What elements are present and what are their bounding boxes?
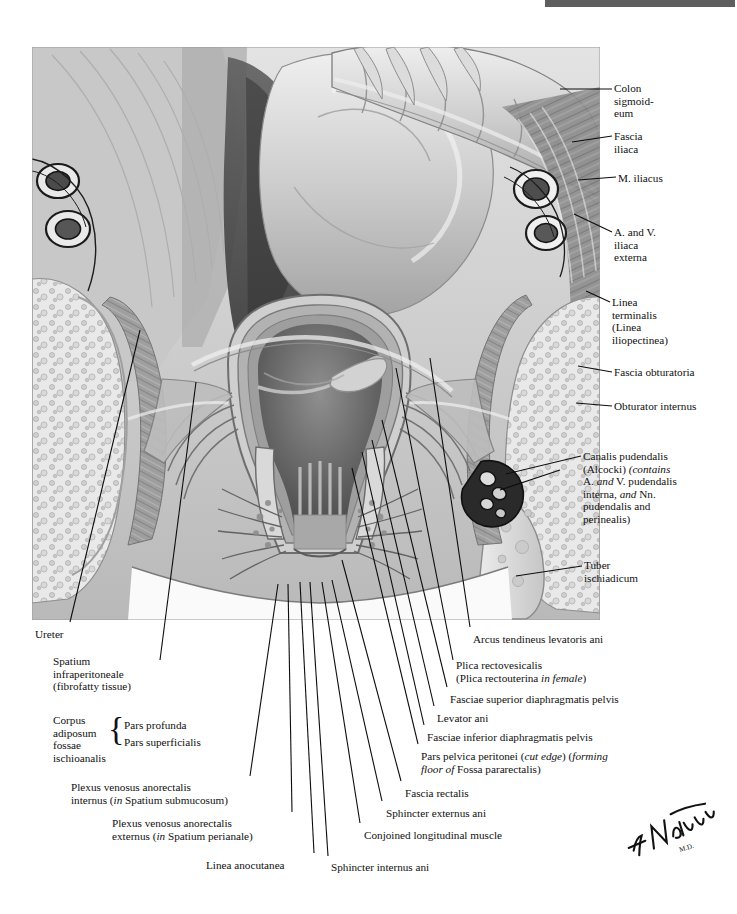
label-obturator-internus: Obturator internus xyxy=(614,400,696,413)
label-plica-rectovesicalis: Plica rectovesicalis(Plica rectouterina … xyxy=(456,659,586,684)
label-pars-superficialis: Pars superficialis xyxy=(124,736,201,749)
label-fascia-obturatoria: Fascia obturatoria xyxy=(614,366,694,379)
label-plexus-venosus-anorectalis-externus: Plexus venosus anorectalisexternus (in S… xyxy=(112,817,253,842)
label-sphincter-internus-ani: Sphincter internus ani xyxy=(331,861,429,874)
leader-linea-anocutanea xyxy=(300,582,314,853)
label-fasciae-superior-diaphragmatis-pelvis: Fasciae superior diaphragmatis pelvis xyxy=(450,693,619,706)
label-conjoined-longitudinal-muscle: Conjoined longitudinal muscle xyxy=(364,829,502,842)
label-sphincter-externus-ani: Sphincter externus ani xyxy=(386,807,486,820)
label-plexus-venosus-anorectalis-internus: Plexus venosus anorectalisinternus (in S… xyxy=(71,781,228,806)
label-m-iliacus: M. iliacus xyxy=(618,172,663,185)
illustration-svg xyxy=(32,47,600,620)
label-pars-profunda: Pars profunda xyxy=(124,719,186,732)
label-ureter: Ureter xyxy=(35,628,64,641)
label-a-and-v-iliaca-externa: A. and V. iliaca externa xyxy=(614,226,656,264)
plate-page: SECTION PLATE 11-8 xyxy=(0,0,737,914)
label-arcus-tendineus-levatoris-ani: Arcus tendineus levatoris ani xyxy=(473,633,603,646)
section-header-title: SECTION PLATE 11-8 xyxy=(545,0,735,1)
label-fascia-iliaca: Fascia iliaca xyxy=(614,130,643,155)
label-tuber-ischiadicum: Tuber ischiadicum xyxy=(584,559,638,584)
anatomical-illustration xyxy=(32,47,600,620)
label-linea-terminalis: Linea terminalis (Linea iliopectinea) xyxy=(612,296,668,346)
artist-signature: M.D. xyxy=(624,802,724,862)
label-levator-ani: Levator ani xyxy=(437,712,488,725)
label-corpus-adiposum-fossae-ischioanalis: Corpus adiposum fossae ischioanalis xyxy=(53,714,106,764)
label-pars-pelvica-peritonei: Pars pelvica peritonei (cut edge) (formi… xyxy=(421,750,608,775)
label-colon-sigmoideum: Colon sigmoid- eum xyxy=(614,82,654,120)
leader-sphincter-internus-ani xyxy=(310,582,328,856)
label-fasciae-inferior-diaphragmatis-pelvis: Fasciae inferior diaphragmatis pelvis xyxy=(427,731,593,744)
section-header-bar: SECTION PLATE 11-8 xyxy=(545,0,735,7)
label-spatium-infraperitoneale: Spatium infraperitoneale (fibrofatty tis… xyxy=(53,655,131,693)
brace-corpus-adiposum: { xyxy=(108,712,124,746)
label-linea-anocutanea: Linea anocutanea xyxy=(206,859,285,872)
label-fascia-rectalis: Fascia rectalis xyxy=(405,787,469,800)
svg-text:M.D.: M.D. xyxy=(678,842,695,854)
label-canalis-pudendalis: Canalis pudendalis(Alcocki) (containsA. … xyxy=(583,450,733,526)
